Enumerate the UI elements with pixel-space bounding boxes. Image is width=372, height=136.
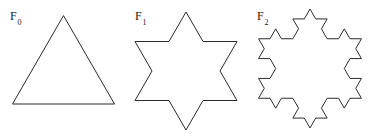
- koch-path-f2: [259, 9, 362, 128]
- figure-panel-f1: F1: [124, 0, 248, 136]
- figure-board: F0 F1 F2: [0, 0, 372, 136]
- figure-panel-f2: F2: [248, 0, 372, 136]
- figure-label-f2-subscript: 2: [264, 18, 268, 27]
- figure-label-f0: F0: [10, 10, 21, 25]
- figure-label-f0-subscript: 0: [17, 18, 21, 27]
- figure-panel-f0: F0: [0, 0, 124, 136]
- figure-label-f0-base: F: [10, 9, 17, 23]
- figure-label-f1-base: F: [135, 9, 142, 23]
- figure-label-f2-base: F: [257, 9, 264, 23]
- figure-label-f2: F2: [257, 10, 268, 25]
- figure-label-f1: F1: [135, 10, 146, 25]
- koch-path-f1: [135, 12, 237, 130]
- koch-path-f0: [13, 16, 115, 104]
- figure-label-f1-subscript: 1: [142, 18, 146, 27]
